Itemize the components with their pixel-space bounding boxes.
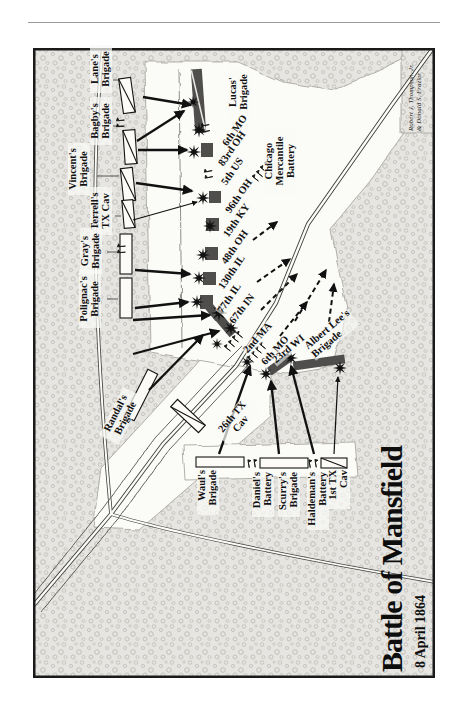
- label-waul-brigade: Waul's Brigade: [197, 469, 219, 515]
- page-rule-line: [28, 22, 440, 23]
- label-vincent-brigade: Vincent's Brigade: [68, 143, 90, 195]
- scanned-map-page: Lane's Brigade Bagby's Brigade Vincent's…: [0, 0, 467, 725]
- label-1st-tx-cav: 1st TX Cav: [328, 469, 350, 509]
- unit-48th-oh: [205, 247, 218, 260]
- label-haldeman-battery: Haldeman's Battery: [307, 471, 329, 530]
- unit-bagby-brigade: [122, 129, 136, 164]
- unit-1st-tx-cav: [321, 458, 347, 468]
- label-bagby-brigade: Bagby's Brigade: [90, 97, 112, 145]
- map-credit: Robert J. Thompson, Jr. & Donald S. Fraz…: [407, 64, 424, 131]
- battle-map: Lane's Brigade Bagby's Brigade Vincent's…: [33, 48, 435, 678]
- unit-terrell-tx-cav: [121, 199, 134, 228]
- map-date: 8 April 1864: [413, 594, 429, 667]
- label-lucas-brigade: Lucas' Brigade: [228, 66, 250, 118]
- label-chicago-mercantile-battery: Chicago Mercantile Battery: [264, 128, 297, 194]
- unit-96th-oh: [209, 191, 221, 203]
- map-title: Battle of Mansfield: [375, 446, 409, 672]
- label-daniel-battery: Daniel's Battery: [252, 471, 274, 517]
- unit-scurry-brigade: [260, 458, 308, 468]
- credit-line-2: & Donald S. Frazier: [415, 64, 423, 131]
- label-gray-brigade: Gray's Brigade: [80, 228, 102, 274]
- unit-waul-brigade: [196, 457, 244, 467]
- unit-83rd-oh: [201, 143, 213, 157]
- label-polignac-brigade: Polignac's Brigade: [79, 270, 101, 328]
- unit-polignac-brigade: [120, 278, 132, 318]
- label-scurry-brigade: Scurry's Brigade: [278, 471, 300, 517]
- label-lane-brigade: Lane's Brigade: [90, 45, 112, 93]
- unit-gray-brigade: [120, 234, 132, 274]
- credit-line-1: Robert J. Thompson, Jr.: [407, 64, 415, 131]
